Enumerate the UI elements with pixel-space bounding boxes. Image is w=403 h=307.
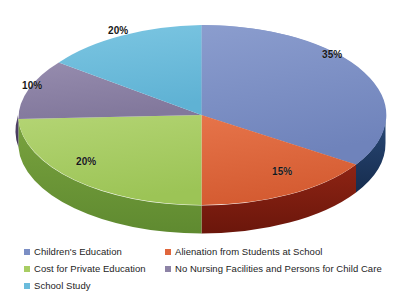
legend-row: Children's Education Alienation from Stu… [24,244,403,260]
legend-swatch-icon [165,249,171,255]
pie-chart-figure: 35% 15% 20% 10% 20% Children's Education… [0,0,403,307]
legend-item-label: No Nursing Facilities and Persons for Ch… [175,263,382,275]
legend-swatch-icon [24,283,30,289]
legend-item-label: School Study [34,280,91,292]
legend-item-school-study[interactable]: School Study [24,278,91,294]
legend-swatch-icon [24,266,30,272]
pie-label-nursing: 10% [22,80,42,91]
legend-row: Cost for Private Education No Nursing Fa… [24,261,403,277]
legend-item-alienation[interactable]: Alienation from Students at School [165,244,322,260]
pie-chart-graphic [0,0,403,240]
legend-item-label: Alienation from Students at School [175,246,322,258]
pie-label-children-education: 35% [322,49,342,60]
legend-item-label: Cost for Private Education [34,263,146,275]
chart-legend: Children's Education Alienation from Stu… [24,244,403,302]
legend-item-label: Children's Education [34,246,122,258]
legend-row: School Study [24,278,403,294]
pie-label-alienation: 15% [272,166,292,177]
pie-slice-private-education[interactable] [18,115,201,205]
side-wall-nursing [15,115,18,147]
pie-plot-area: 35% 15% 20% 10% 20% [0,0,403,240]
legend-item-children-education[interactable]: Children's Education [24,244,122,260]
pie-label-private-education: 20% [76,156,96,167]
legend-item-private-education[interactable]: Cost for Private Education [24,261,146,277]
legend-swatch-icon [24,249,30,255]
legend-item-nursing[interactable]: No Nursing Facilities and Persons for Ch… [165,261,382,277]
legend-swatch-icon [165,266,171,272]
pie-label-school-study: 20% [108,25,128,36]
